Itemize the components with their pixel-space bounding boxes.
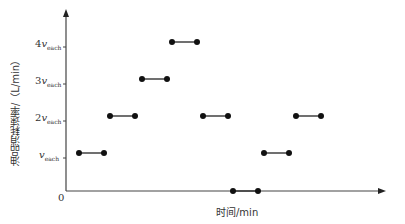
y-tick-label: 3veach	[35, 75, 61, 88]
y-axis-label: 油品消耗速率/（L/min）	[8, 40, 26, 180]
data-segments	[76, 39, 324, 194]
data-segment	[107, 113, 138, 119]
y-tick-label: veach	[39, 149, 59, 162]
x-axis-arrow-icon	[378, 188, 386, 194]
data-segment	[169, 39, 200, 45]
data-segment	[230, 188, 261, 194]
origin-label: 0	[58, 192, 64, 203]
y-tick-label: 4veach	[35, 38, 61, 51]
y-axis-arrow-icon	[63, 9, 69, 17]
data-segment	[200, 113, 231, 119]
data-segment	[139, 76, 170, 82]
data-segment	[293, 113, 324, 119]
y-tick-label: 2veach	[35, 112, 61, 125]
data-segment	[76, 150, 107, 156]
x-axis-label: 时间/min	[216, 204, 258, 219]
data-segment	[261, 150, 292, 156]
